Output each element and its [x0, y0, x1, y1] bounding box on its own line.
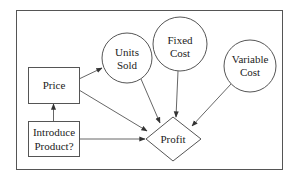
node-introduce-label-line2: Product? — [34, 140, 73, 152]
node-variable-cost-label-line1: Variable — [232, 53, 269, 65]
node-price[interactable]: Price — [29, 68, 80, 104]
node-variable-cost-label-line2: Cost — [240, 66, 260, 78]
node-profit-label: Profit — [160, 133, 185, 145]
node-units-sold-label-line2: Sold — [117, 59, 138, 71]
node-fixed-cost-label-line1: Fixed — [167, 34, 193, 46]
node-fixed-cost-label-line2: Cost — [170, 47, 190, 59]
edge-price-to-units-sold — [79, 68, 102, 79]
node-units-sold-label-line1: Units — [115, 46, 139, 58]
influence-diagram: Price Introduce Product? Units Sold Fixe… — [0, 0, 295, 177]
node-introduce-product[interactable]: Introduce Product? — [29, 122, 80, 157]
node-fixed-cost[interactable]: Fixed Cost — [153, 17, 207, 71]
node-variable-cost[interactable]: Variable Cost — [224, 40, 276, 92]
edge-fixed-cost-to-profit — [176, 71, 178, 117]
node-profit[interactable]: Profit — [146, 117, 201, 161]
edge-units-sold-to-profit — [141, 79, 160, 123]
edge-variable-cost-to-profit — [192, 84, 231, 126]
node-units-sold[interactable]: Units Sold — [102, 33, 152, 83]
edge-price-to-profit — [79, 90, 147, 131]
node-price-label: Price — [43, 79, 66, 91]
edges — [54, 68, 232, 139]
node-introduce-label-line1: Introduce — [33, 126, 75, 138]
